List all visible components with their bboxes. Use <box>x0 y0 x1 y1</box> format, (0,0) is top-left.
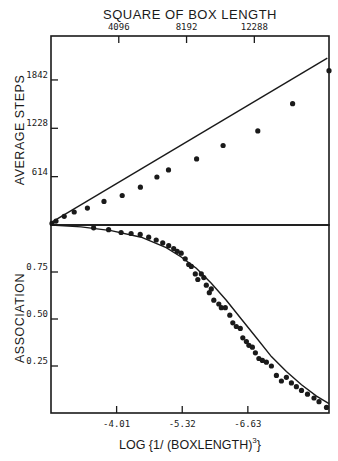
data-point <box>120 193 125 198</box>
data-point <box>101 199 106 204</box>
lower-y-tick-label: 0.50 <box>26 309 48 319</box>
data-point <box>154 174 159 179</box>
upper-y-axis-label: AVERAGE STEPS <box>13 75 27 185</box>
bottom-axis-title: LOG {1/ (BOXLENGTH)3} <box>119 436 261 452</box>
data-point <box>316 399 321 404</box>
chart-canvas: SQUARE OF BOX LENGTH AVERAGE STEPS ASSOC… <box>0 0 338 461</box>
data-point <box>274 373 279 378</box>
data-point <box>85 206 90 211</box>
data-point <box>250 345 255 350</box>
data-point <box>324 405 329 410</box>
upper-y-tick-label: 1228 <box>26 118 48 128</box>
data-point <box>138 185 143 190</box>
lower-y-tick-label: 0.25 <box>26 356 48 366</box>
data-point <box>269 363 274 368</box>
data-point <box>290 101 295 106</box>
lower-y-axis-label: ASSOCIATION <box>13 273 27 363</box>
bottom-x-tick-label: -4.01 <box>103 419 130 429</box>
data-point <box>264 360 269 365</box>
data-point <box>255 128 260 133</box>
data-point <box>166 167 171 172</box>
lower-frame <box>51 225 329 413</box>
top-axis-title: SQUARE OF BOX LENGTH <box>103 7 277 22</box>
upper-y-tick-label: 614 <box>32 167 48 177</box>
top-x-tick-label: 8192 <box>176 22 198 32</box>
plot-frames <box>51 36 329 413</box>
data-point <box>299 388 304 393</box>
data-point <box>211 298 216 303</box>
data-point <box>179 251 184 256</box>
data-point <box>204 283 209 288</box>
data-point <box>279 378 284 383</box>
upper-plot-area <box>49 58 331 226</box>
data-point <box>240 335 245 340</box>
data-point <box>209 286 214 291</box>
bottom-x-tick-label: -6.63 <box>234 419 261 429</box>
top-x-tick-label: 12288 <box>241 22 268 32</box>
data-point <box>326 68 331 73</box>
data-point <box>154 237 159 242</box>
data-point <box>221 143 226 148</box>
fit-line <box>51 58 327 223</box>
upper-y-tick-label: 1842 <box>26 70 48 80</box>
top-x-tick-label: 4096 <box>108 22 130 32</box>
data-point <box>238 326 243 331</box>
data-point <box>223 305 228 310</box>
lower-plot-area <box>51 225 329 410</box>
data-point <box>289 380 294 385</box>
data-point <box>194 156 199 161</box>
lower-y-tick-label: 0.75 <box>26 262 48 272</box>
figure: SQUARE OF BOX LENGTH AVERAGE STEPS ASSOC… <box>0 0 338 461</box>
data-point <box>195 277 200 282</box>
upper-frame <box>51 36 329 225</box>
data-point <box>305 392 310 397</box>
data-point <box>284 375 289 380</box>
data-point <box>294 384 299 389</box>
bottom-x-tick-label: -5.32 <box>169 419 196 429</box>
data-point <box>253 350 258 355</box>
data-point <box>227 313 232 318</box>
data-point <box>193 271 198 276</box>
